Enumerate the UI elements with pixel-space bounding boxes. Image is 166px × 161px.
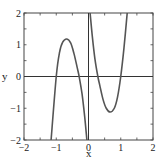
y-tick-labels: −2−1012 [10,8,21,146]
y-tick-label: 2 [16,8,21,19]
y-tick-label: −2 [10,135,21,146]
y-tick-label: −1 [10,103,21,114]
x-tick-label: 1 [118,142,123,153]
y-tick-label: 0 [16,71,21,82]
function-plot: −2−1012 −2−1012 x y [0,0,166,161]
y-tick-label: 1 [16,39,21,50]
curve-left-branch [51,39,87,140]
x-axis-label: x [86,147,92,159]
curve-right-branch [90,13,127,112]
reference-lines [24,13,153,140]
x-tick-label: 2 [151,142,156,153]
y-axis-label: y [2,70,8,82]
x-tick-label: −1 [51,142,62,153]
